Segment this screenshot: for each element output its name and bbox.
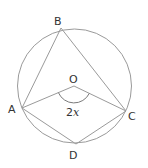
angle-label-var: x <box>73 106 80 119</box>
radius-oc <box>74 86 126 111</box>
segment-dc <box>76 111 126 144</box>
label-d: D <box>69 149 77 162</box>
label-c: C <box>128 110 136 123</box>
label-a: A <box>8 103 16 116</box>
circle-diagram: B A C D O 2x <box>0 0 148 168</box>
angle-arc-aoc <box>58 93 89 103</box>
label-o: O <box>69 73 78 86</box>
segment-bc <box>61 28 126 111</box>
angle-label-coef: 2 <box>66 106 73 119</box>
radius-oa <box>22 86 74 108</box>
label-b: B <box>54 15 62 28</box>
angle-label: 2x <box>66 106 80 119</box>
